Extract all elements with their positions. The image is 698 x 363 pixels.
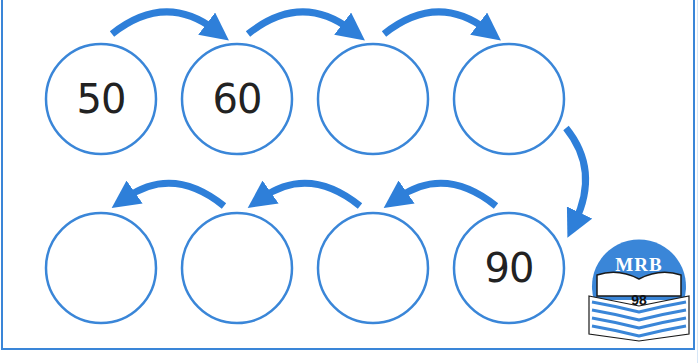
- circle-top-4-value[interactable]: [454, 44, 564, 154]
- circle-top-3-value[interactable]: [318, 44, 428, 154]
- arrow-left-icon: [262, 183, 360, 206]
- circle-top-2-value: 60: [182, 44, 292, 154]
- badge-page-number: 98: [594, 292, 684, 308]
- circle-bottom-4-value: 90: [454, 213, 564, 323]
- arrow-left-icon: [126, 183, 224, 206]
- circle-bottom-2-value[interactable]: [182, 213, 292, 323]
- badge-title: MRB: [594, 254, 684, 276]
- circle-top-1-value: 50: [46, 44, 156, 154]
- arrow-down-icon: [566, 128, 586, 222]
- arrow-right-icon: [384, 12, 487, 34]
- arrow-right-icon: [248, 12, 351, 34]
- circle-bottom-3-value[interactable]: [318, 213, 428, 323]
- arrow-right-icon: [112, 12, 215, 34]
- arrow-left-icon: [398, 183, 496, 206]
- circle-bottom-1-value[interactable]: [46, 213, 156, 323]
